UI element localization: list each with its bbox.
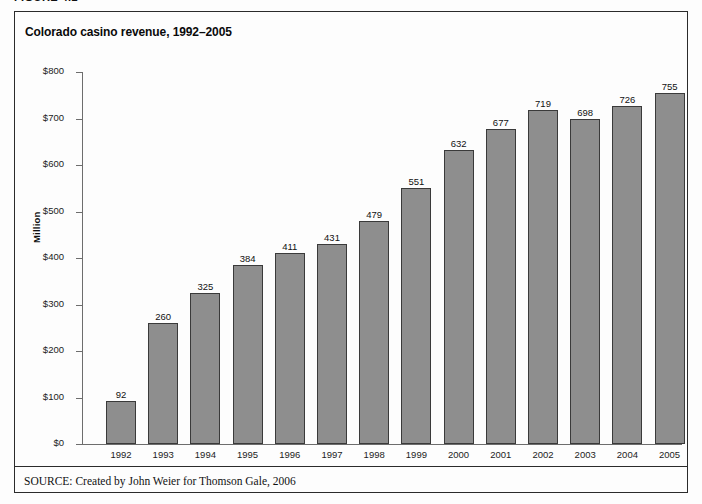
bar: 431	[317, 244, 347, 444]
x-tick-label: 1996	[269, 449, 311, 460]
y-tick-label: $200	[43, 344, 64, 355]
y-axis-title: Million	[31, 212, 42, 243]
y-tick-mark	[76, 72, 82, 73]
x-tick-label: 1993	[142, 449, 184, 460]
source-label: SOURCE:	[24, 475, 73, 487]
bar-value-label: 698	[577, 107, 593, 118]
y-tick-label: $500	[43, 205, 64, 216]
x-tick-label: 2004	[606, 449, 648, 460]
source-text: Created by John Weier for Thomson Gale, …	[73, 475, 296, 487]
y-tick-label: $600	[43, 158, 64, 169]
bar-value-label: 411	[282, 241, 297, 252]
y-tick-mark	[76, 444, 82, 445]
bar-value-label: 677	[493, 117, 509, 128]
plot-area: Million $0$100$200$300$400$500$600$700$8…	[68, 57, 688, 457]
y-tick-mark	[76, 165, 82, 166]
x-tick-label: 2000	[438, 449, 480, 460]
y-tick-mark	[76, 351, 82, 352]
y-tick-label: $700	[43, 112, 64, 123]
bar: 92	[106, 401, 136, 444]
x-tick-label: 1998	[353, 449, 395, 460]
x-axis-line	[82, 444, 682, 445]
bar-value-label: 632	[451, 138, 467, 149]
bar-value-label: 431	[324, 232, 340, 243]
y-tick-label: $300	[43, 298, 64, 309]
y-tick-mark	[76, 258, 82, 259]
bar: 384	[233, 265, 263, 444]
x-tick-label: 1999	[395, 449, 437, 460]
y-tick-mark	[76, 398, 82, 399]
bar-value-label: 92	[116, 389, 127, 400]
figure-frame: Colorado casino revenue, 1992–2005 Milli…	[14, 11, 688, 493]
bar-value-label: 260	[155, 311, 171, 322]
source-note: SOURCE: Created by John Weier for Thomso…	[24, 475, 296, 487]
x-tick-label: 2005	[649, 449, 691, 460]
bar: 698	[570, 119, 600, 444]
x-tick-label: 1997	[311, 449, 353, 460]
x-tick-label: 1992	[100, 449, 142, 460]
x-tick-label: 2002	[522, 449, 564, 460]
bar: 325	[190, 293, 220, 444]
bar-value-label: 325	[197, 281, 213, 292]
bar: 726	[612, 106, 642, 444]
bar: 719	[528, 110, 558, 444]
bar-value-label: 719	[535, 98, 551, 109]
y-tick-label: $0	[53, 437, 64, 448]
y-tick-label: $400	[43, 251, 64, 262]
source-divider	[15, 466, 687, 467]
bar: 260	[148, 323, 178, 444]
x-tick-label: 1994	[184, 449, 226, 460]
y-axis-line	[82, 72, 83, 445]
bar-value-label: 726	[619, 94, 635, 105]
y-tick-mark	[76, 305, 82, 306]
x-tick-label: 2003	[564, 449, 606, 460]
bar: 411	[275, 253, 305, 444]
bar-value-label: 755	[662, 81, 678, 92]
bar: 632	[444, 150, 474, 444]
y-tick-mark	[76, 119, 82, 120]
bar-value-label: 384	[240, 253, 256, 264]
chart-title: Colorado casino revenue, 1992–2005	[25, 25, 232, 39]
figure-number-label: FIGURE 4.2	[14, 0, 78, 3]
y-tick-label: $100	[43, 391, 64, 402]
x-tick-label: 1995	[227, 449, 269, 460]
bar: 677	[486, 129, 516, 444]
bar: 479	[359, 221, 389, 444]
bar: 551	[401, 188, 431, 444]
x-tick-label: 2001	[480, 449, 522, 460]
y-tick-label: $800	[43, 65, 64, 76]
bar-value-label: 479	[366, 209, 382, 220]
bar: 755	[655, 93, 685, 444]
bar-value-label: 551	[408, 176, 424, 187]
y-tick-mark	[76, 212, 82, 213]
